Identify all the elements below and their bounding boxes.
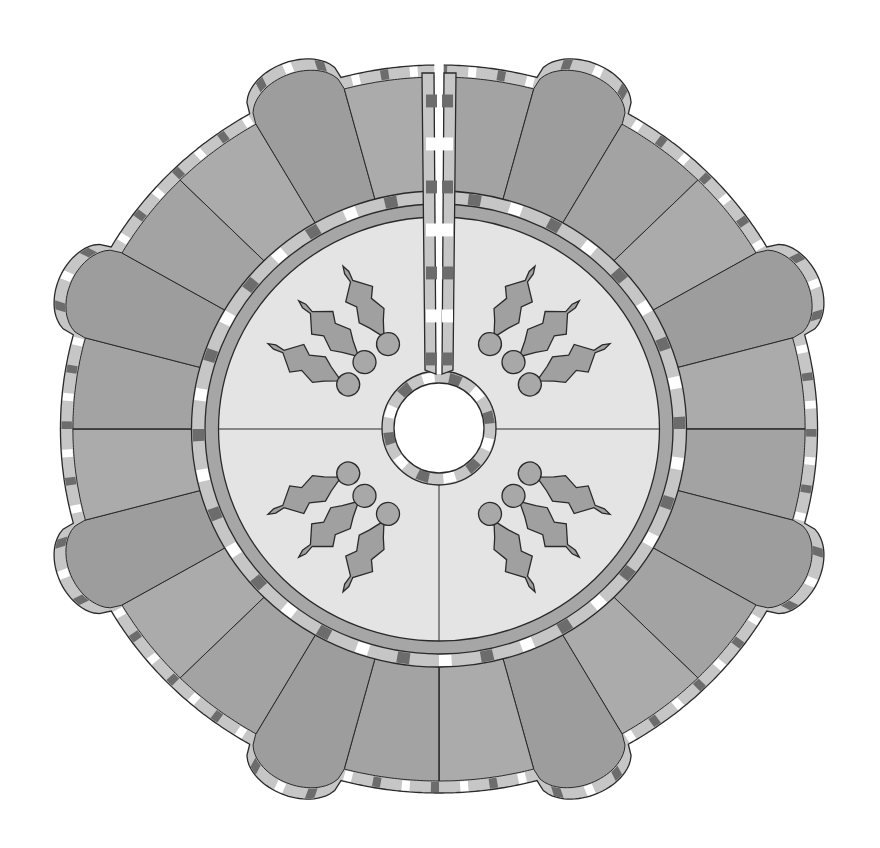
slit-binding-check <box>426 181 437 194</box>
slit-binding-check <box>442 95 453 108</box>
binding-check <box>804 457 815 466</box>
binding-check <box>409 67 418 78</box>
hole-opening <box>394 383 484 473</box>
slit-binding-check <box>442 181 453 194</box>
slit-binding-check <box>442 224 453 237</box>
slit-binding-check <box>426 267 437 280</box>
inner-binding-check <box>194 388 207 402</box>
binding-check <box>468 67 477 78</box>
inner-binding-check <box>439 655 452 666</box>
inner-binding-check <box>193 429 205 441</box>
binding-check <box>401 780 410 791</box>
slit-binding-check <box>426 138 437 151</box>
tree-skirt-diagram <box>0 0 880 848</box>
binding-check <box>489 778 499 789</box>
binding-check <box>802 372 814 381</box>
inner-binding-check <box>671 457 684 471</box>
slit-binding-check <box>442 138 453 151</box>
slit-binding-check <box>442 310 453 323</box>
binding-check <box>431 782 439 792</box>
inner-binding-check <box>468 194 482 207</box>
inner-binding-check <box>396 652 410 665</box>
inner-binding-check <box>674 417 686 429</box>
binding-check <box>380 69 390 80</box>
binding-check <box>460 781 469 792</box>
binding-check <box>62 421 73 429</box>
slit-binding-check <box>442 267 453 280</box>
binding-check <box>65 477 77 486</box>
binding-check <box>805 401 816 409</box>
binding-check <box>806 429 817 437</box>
binding-check <box>63 393 74 402</box>
slit-binding-check <box>426 224 437 237</box>
slit-binding-check <box>442 353 453 366</box>
center-hole <box>382 371 496 485</box>
slit-binding-check <box>426 353 437 366</box>
binding-check <box>62 449 73 457</box>
slit-binding-check <box>426 310 437 323</box>
slit-binding-check <box>426 95 437 108</box>
